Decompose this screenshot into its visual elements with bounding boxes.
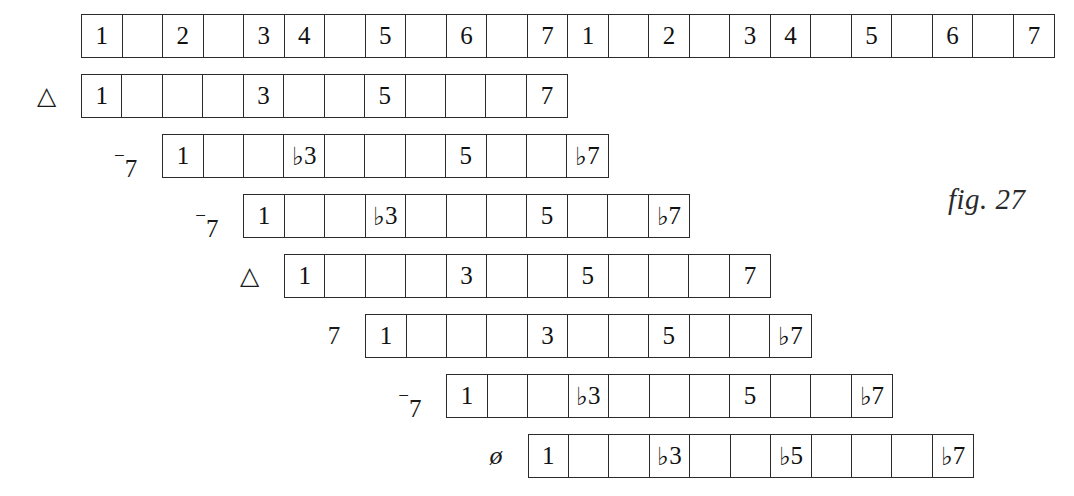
semitone-cell: 5 bbox=[649, 315, 689, 357]
semitone-cell: ♭3 bbox=[569, 375, 609, 417]
scale-degree-label: 1 bbox=[298, 263, 311, 288]
major-seventh-triangle-glyph: △ bbox=[37, 82, 56, 109]
semitone-cell bbox=[204, 135, 244, 177]
scale-degree-label: ♭3 bbox=[576, 383, 601, 408]
minor-sign-glyph: − bbox=[114, 145, 124, 166]
scale-degree-label: 1 bbox=[258, 203, 271, 228]
semitone-cell bbox=[325, 15, 366, 57]
semitone-cell bbox=[447, 195, 487, 237]
semitone-cell bbox=[366, 255, 406, 297]
flat-sign-glyph: ♭ bbox=[779, 443, 791, 470]
scale-degree-label: 2 bbox=[663, 23, 676, 48]
scale-degree-label: ♭5 bbox=[779, 443, 804, 468]
scale-degree-label: 3 bbox=[541, 323, 554, 348]
chord-symbol-major-seventh-on-1: △ bbox=[0, 74, 56, 118]
semitone-cell: 5 bbox=[527, 195, 567, 237]
scale-degree-label: 5 bbox=[582, 263, 595, 288]
semitone-cell bbox=[609, 435, 649, 477]
scale-degree-label: 7 bbox=[541, 83, 554, 108]
semitone-cell bbox=[447, 315, 487, 357]
chord-row-dominant-seventh-on-5: 7135♭7 bbox=[0, 314, 1074, 358]
semitone-cell: 3 bbox=[447, 255, 487, 297]
scale-degree-label: ♭7 bbox=[575, 143, 600, 168]
scale-degree-label: 5 bbox=[663, 323, 676, 348]
semitone-cell: ♭7 bbox=[933, 435, 973, 477]
minor-sign-glyph: − bbox=[195, 205, 205, 226]
semitone-cell: 1 bbox=[82, 15, 123, 57]
semitone-cell bbox=[527, 135, 567, 177]
semitone-cell bbox=[406, 195, 446, 237]
semitone-cell: 3 bbox=[244, 15, 285, 57]
semitone-cell bbox=[811, 15, 852, 57]
semitone-grid-minor-seventh-on-6: 1♭35♭7 bbox=[446, 374, 893, 418]
semitone-cell bbox=[731, 435, 771, 477]
flat-sign-glyph: ♭ bbox=[860, 383, 872, 410]
semitone-cell bbox=[446, 75, 486, 117]
semitone-cell bbox=[528, 255, 568, 297]
semitone-cell bbox=[689, 255, 729, 297]
semitone-cell: ♭7 bbox=[770, 315, 810, 357]
scale-degree-label: 5 bbox=[379, 23, 392, 48]
scale-degree-label: ♭3 bbox=[657, 443, 682, 468]
scale-degree-label: 7 bbox=[744, 263, 757, 288]
semitone-cell bbox=[406, 15, 447, 57]
chord-row-minor-seventh-on-3: −71♭35♭7 bbox=[0, 194, 1074, 238]
chord-symbol-minor-seventh-on-3: −7 bbox=[113, 194, 218, 238]
figure-caption: fig. 27 bbox=[948, 183, 1026, 216]
flat-sign-glyph: ♭ bbox=[941, 443, 953, 470]
scale-degree-label: 5 bbox=[744, 383, 757, 408]
semitone-cell bbox=[609, 375, 649, 417]
semitone-cell bbox=[487, 315, 527, 357]
semitone-cell bbox=[163, 75, 203, 117]
semitone-cell bbox=[325, 135, 365, 177]
scale-degree-label: ♭7 bbox=[941, 443, 966, 468]
semitone-cell: 7 bbox=[528, 15, 569, 57]
flat-sign-glyph: ♭ bbox=[778, 323, 790, 350]
scale-degree-label: 1 bbox=[177, 143, 190, 168]
semitone-cell: 1 bbox=[529, 435, 569, 477]
semitone-cell: 5 bbox=[366, 15, 407, 57]
semitone-cell bbox=[285, 195, 325, 237]
semitone-cell bbox=[406, 75, 446, 117]
semitone-cell: 6 bbox=[447, 15, 488, 57]
semitone-cell bbox=[406, 135, 446, 177]
semitone-cell bbox=[325, 75, 365, 117]
semitone-cell bbox=[690, 315, 730, 357]
semitone-cell bbox=[487, 195, 527, 237]
semitone-cell bbox=[730, 315, 770, 357]
semitone-cell: ♭3 bbox=[284, 135, 324, 177]
scale-degree-label: 1 bbox=[542, 443, 555, 468]
semitone-cell bbox=[325, 255, 365, 297]
chord-row-minor-seventh-on-6: −71♭35♭7 bbox=[0, 374, 1074, 418]
figure-27-diagram: 12345671234567△1357−71♭35♭7−71♭35♭7△1357… bbox=[0, 0, 1074, 496]
chord-row-chromatic-scale-two-octaves: 12345671234567 bbox=[0, 14, 1074, 58]
semitone-cell bbox=[488, 375, 528, 417]
scale-degree-label: 1 bbox=[96, 23, 109, 48]
scale-degree-label: 7 bbox=[1028, 23, 1041, 48]
chord-row-major-seventh-on-4: △1357 bbox=[0, 254, 1074, 298]
semitone-cell: 1 bbox=[447, 375, 487, 417]
semitone-cell bbox=[690, 375, 730, 417]
semitone-cell bbox=[973, 15, 1014, 57]
semitone-cell bbox=[407, 315, 447, 357]
semitone-cell bbox=[568, 315, 608, 357]
semitone-cell bbox=[811, 375, 851, 417]
semitone-cell: 4 bbox=[285, 15, 326, 57]
semitone-cell bbox=[608, 195, 648, 237]
scale-degree-label: ♭3 bbox=[373, 203, 398, 228]
semitone-cell: ♭7 bbox=[567, 135, 607, 177]
semitone-grid-minor-seventh-on-2: 1♭35♭7 bbox=[162, 134, 609, 178]
scale-degree-label: 5 bbox=[865, 23, 878, 48]
major-seventh-triangle-glyph: △ bbox=[240, 262, 259, 289]
semitone-cell bbox=[487, 255, 527, 297]
semitone-cell: 7 bbox=[1014, 15, 1055, 57]
semitone-cell: 5 bbox=[568, 255, 608, 297]
scale-degree-label: 1 bbox=[95, 83, 108, 108]
semitone-cell: 1 bbox=[163, 135, 203, 177]
semitone-cell bbox=[690, 15, 731, 57]
semitone-cell: ♭7 bbox=[649, 195, 689, 237]
scale-degree-label: 3 bbox=[257, 83, 270, 108]
semitone-grid-dominant-seventh-on-5: 135♭7 bbox=[365, 314, 812, 358]
semitone-cell bbox=[122, 75, 162, 117]
flat-sign-glyph: ♭ bbox=[292, 143, 304, 170]
